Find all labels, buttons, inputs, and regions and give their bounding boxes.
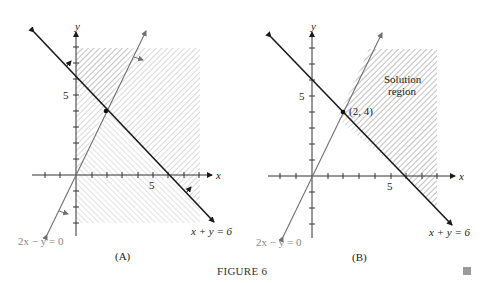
chart-b-solution-label-line1: Solution — [384, 74, 421, 85]
chart-b-solution-label-line2: region — [388, 86, 416, 97]
chart-a-dir-arrow-2x-y-bottom — [59, 211, 68, 214]
chart-a-label-xy6: x + y = 6 — [191, 226, 232, 237]
chart-a-y-axis-label: y — [75, 21, 80, 32]
chart-b — [268, 32, 455, 238]
figure-canvas — [0, 0, 495, 283]
chart-b-y-tick-5: 5 — [299, 91, 305, 102]
chart-b-intersection-point — [341, 110, 346, 115]
chart-b-y-axis-label: y — [311, 21, 316, 32]
chart-b-panel-label: (B) — [352, 252, 367, 263]
figure-caption: FIGURE 6 — [217, 265, 267, 277]
chart-b-label-xy6: x + y = 6 — [429, 227, 470, 238]
chart-b-label-2x-y: 2x − y = 0 — [256, 237, 301, 248]
chart-a — [32, 31, 214, 236]
chart-a-y-tick-5: 5 — [63, 90, 69, 101]
chart-b-point-label: (2, 4) — [349, 106, 373, 117]
chart-a-label-2x-y: 2x − y = 0 — [18, 236, 63, 247]
chart-a-dir-arrow-xy6-top — [66, 61, 71, 67]
chart-a-intersection-point — [104, 109, 109, 114]
chart-a-shading — [76, 48, 200, 223]
chart-b-x-tick-5: 5 — [387, 181, 393, 192]
chart-b-x-axis-label: x — [459, 171, 464, 182]
chart-a-x-tick-5: 5 — [149, 180, 155, 191]
chart-a-panel-label: (A) — [115, 251, 130, 262]
chart-a-x-axis-label: x — [216, 170, 221, 181]
end-of-example-marker — [463, 267, 471, 275]
